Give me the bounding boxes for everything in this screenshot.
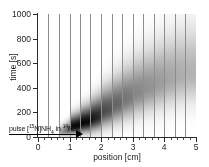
x-axis-line <box>37 137 197 138</box>
column-separator-line-11 <box>154 14 155 137</box>
x-minor-tick-4 <box>76 138 77 140</box>
x-minor-tick-1 <box>51 138 52 140</box>
x-tick-label-3: 3 <box>124 143 142 152</box>
pulse-arrow-head-icon <box>76 130 83 138</box>
column-separator-line-5 <box>90 14 91 137</box>
x-minor-tick-7 <box>95 138 96 140</box>
column-separator-line-2 <box>59 14 60 137</box>
x-minor-tick-11 <box>126 138 127 140</box>
y-tick-label-1000: 1000 <box>0 10 31 18</box>
column-separator-line-4 <box>80 14 81 137</box>
y-axis-label: time [s] <box>8 41 18 93</box>
x-minor-tick-8 <box>108 138 109 140</box>
x-minor-tick-2 <box>57 138 58 140</box>
x-tick-label-5: 5 <box>187 143 205 152</box>
x-minor-tick-13 <box>145 138 146 140</box>
pulse-prefix-text: pulse [ <box>9 125 29 132</box>
y-tick-0 <box>33 137 37 138</box>
y-tick-200 <box>33 112 37 113</box>
x-minor-tick-19 <box>190 138 191 140</box>
x-axis-label: position [cm] <box>38 152 196 162</box>
x-minor-tick-5 <box>82 138 83 140</box>
x-tick-label-1: 1 <box>61 143 79 152</box>
column-separator-line-9 <box>133 14 134 137</box>
x-minor-tick-15 <box>158 138 159 140</box>
x-minor-tick-12 <box>139 138 140 140</box>
y-tick-800 <box>33 39 37 40</box>
x-minor-tick-17 <box>177 138 178 140</box>
x-tick-label-4: 4 <box>155 143 173 152</box>
x-minor-tick-9 <box>114 138 115 140</box>
column-separator-line-14 <box>185 14 186 137</box>
y-axis-line <box>37 13 38 138</box>
y-tick-600 <box>33 63 37 64</box>
column-separator-line-1 <box>48 14 49 137</box>
y-tick-400 <box>33 88 37 89</box>
x-minor-tick-18 <box>183 138 184 140</box>
x-minor-tick-16 <box>171 138 172 140</box>
density-plume-heatmap <box>38 14 196 137</box>
x-minor-tick-0 <box>44 138 45 140</box>
y-tick-1000 <box>33 14 37 15</box>
x-minor-tick-3 <box>63 138 64 140</box>
x-tick-label-2: 2 <box>92 143 110 152</box>
pulse-arrow-line <box>9 134 78 135</box>
column-separator-line-12 <box>164 14 165 137</box>
x-minor-tick-6 <box>89 138 90 140</box>
column-separator-line-7 <box>112 14 113 137</box>
column-separator-line-6 <box>101 14 102 137</box>
x-tick-label-0: 0 <box>29 143 47 152</box>
y-tick-label-200: 200 <box>0 108 31 116</box>
pulse-middle-text: in <box>54 125 63 132</box>
chart-figure: 02004006008001000 012345 position [cm] t… <box>0 0 209 167</box>
plot-area <box>38 14 196 137</box>
column-separator-line-3 <box>70 14 71 137</box>
x-minor-tick-10 <box>120 138 121 140</box>
x-minor-tick-14 <box>152 138 153 140</box>
column-separator-line-10 <box>143 14 144 137</box>
tracer-element-text: N]NH <box>34 125 51 132</box>
column-separator-line-8 <box>122 14 123 137</box>
column-separator-line-13 <box>175 14 176 137</box>
